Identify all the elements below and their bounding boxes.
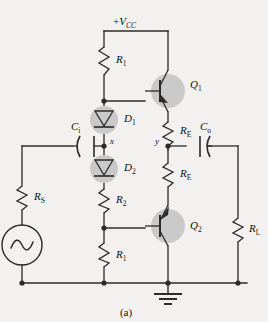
- junction-source-gnd: [19, 280, 24, 285]
- junction-rl-gnd: [235, 280, 240, 285]
- junction-nodeA: [101, 98, 106, 103]
- junction-nodeY: [165, 143, 170, 148]
- node-label-x: x: [109, 136, 114, 146]
- junction-nodeB: [101, 225, 106, 230]
- schematic-canvas: R1 D1 D2 R2 R1 Q1: [0, 0, 268, 322]
- junction-r1b-gnd: [101, 280, 106, 285]
- figure-caption: (a): [120, 306, 133, 319]
- junction-nodeX: [101, 143, 106, 148]
- node-label-y: y: [154, 136, 159, 146]
- d2-shade: [90, 155, 118, 183]
- figure-background: [0, 0, 268, 322]
- d1-shade: [90, 106, 118, 134]
- junction-q2-gnd: [165, 280, 170, 285]
- circuit-diagram-figure: R1 D1 D2 R2 R1 Q1: [0, 0, 268, 322]
